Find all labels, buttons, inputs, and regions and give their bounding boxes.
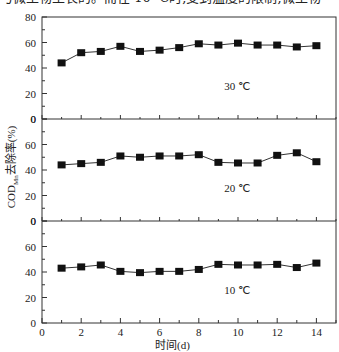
data-marker xyxy=(97,261,105,268)
data-marker xyxy=(234,159,242,166)
data-marker xyxy=(175,152,183,159)
data-marker xyxy=(293,43,301,50)
data-marker xyxy=(214,42,222,49)
data-marker xyxy=(136,154,144,161)
y-tick-label: 0 xyxy=(31,215,37,227)
y-tick-label: 80 xyxy=(25,11,37,23)
y-tick-label: 20 xyxy=(25,292,37,304)
data-marker xyxy=(312,260,320,267)
data-marker xyxy=(273,152,281,159)
data-marker xyxy=(234,261,242,268)
data-marker xyxy=(58,161,66,168)
data-marker xyxy=(77,49,85,56)
y-axis-label-main: COD xyxy=(5,185,17,208)
data-marker xyxy=(195,151,203,158)
panel-temperature-label: 30 ℃ xyxy=(224,80,250,92)
panel-temperature-label: 10 ℃ xyxy=(224,284,250,296)
data-marker xyxy=(156,152,164,159)
x-tick-label: 12 xyxy=(272,326,283,338)
data-marker xyxy=(58,265,66,272)
x-tick-label: 14 xyxy=(311,326,323,338)
data-marker xyxy=(77,160,85,167)
data-marker xyxy=(175,268,183,275)
y-tick-label: 60 xyxy=(25,37,37,49)
data-marker xyxy=(234,40,242,47)
data-marker xyxy=(97,159,105,166)
panel-temperature-label: 20 ℃ xyxy=(224,182,250,194)
y-tick-label: 0 xyxy=(31,113,37,125)
data-marker xyxy=(195,40,203,47)
y-tick-label: 60 xyxy=(25,241,37,253)
panel-0: 02040608030 ℃ xyxy=(25,11,320,125)
x-tick-label: 2 xyxy=(78,326,84,338)
data-marker xyxy=(273,42,281,49)
data-marker xyxy=(214,261,222,268)
data-marker xyxy=(312,158,320,165)
data-marker xyxy=(214,159,222,166)
data-marker xyxy=(254,261,262,268)
y-tick-label: 60 xyxy=(25,139,37,151)
data-marker xyxy=(97,48,105,55)
y-tick-label: 40 xyxy=(25,266,37,278)
y-axis-label: CODMn去除率(%) xyxy=(2,112,16,222)
y-tick-label: 20 xyxy=(25,88,37,100)
y-tick-label: 20 xyxy=(25,190,37,202)
data-marker xyxy=(254,159,262,166)
data-marker xyxy=(116,268,124,275)
y-axis-label-sub: Mn xyxy=(12,175,20,185)
data-marker xyxy=(293,149,301,156)
data-marker xyxy=(156,47,164,54)
data-marker xyxy=(77,263,85,270)
y-tick-label: 40 xyxy=(25,164,37,176)
data-marker xyxy=(175,44,183,51)
data-marker xyxy=(136,48,144,55)
data-marker xyxy=(195,266,203,273)
panel-1: 0204060020 ℃ xyxy=(25,113,336,227)
data-marker xyxy=(136,269,144,276)
data-marker xyxy=(254,42,262,49)
data-marker xyxy=(156,268,164,275)
x-tick-label: 0 xyxy=(39,326,45,338)
data-marker xyxy=(312,42,320,49)
data-marker xyxy=(116,43,124,50)
y-tick-label: 40 xyxy=(25,62,37,74)
panel-2: 0204060010 ℃ xyxy=(25,215,336,329)
data-marker xyxy=(273,261,281,268)
x-tick-label: 8 xyxy=(196,326,202,338)
x-tick-label: 4 xyxy=(118,326,124,338)
data-marker xyxy=(116,152,124,159)
data-marker xyxy=(293,264,301,271)
y-axis-label-rest: 去除率(%) xyxy=(5,126,17,176)
data-marker xyxy=(58,59,66,66)
plot-frame xyxy=(42,17,336,323)
y-tick-label: 0 xyxy=(31,317,37,329)
x-tick-label: 10 xyxy=(233,326,245,338)
x-axis-label: 时间(d) xyxy=(155,336,190,352)
